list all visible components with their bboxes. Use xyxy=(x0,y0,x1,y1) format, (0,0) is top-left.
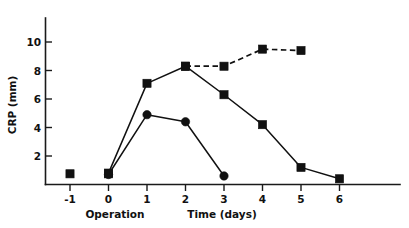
data-point-circle xyxy=(181,118,189,126)
data-point-square xyxy=(297,46,305,54)
y-axis-title: CRP (mm) xyxy=(6,76,18,135)
y-tick-marks xyxy=(46,42,53,156)
y-tick-label-4: 4 xyxy=(34,122,41,134)
x-tick-label--1: -1 xyxy=(64,193,76,205)
x-tick-marks xyxy=(70,185,340,192)
x-tick-label-6: 6 xyxy=(336,193,343,205)
operation-annotation: Operation xyxy=(85,208,144,220)
y-tick-label-8: 8 xyxy=(34,65,41,77)
x-tick-label-3: 3 xyxy=(220,193,227,205)
x-tick-label-2: 2 xyxy=(182,193,189,205)
series-path-squares-dashed-plateau xyxy=(186,49,302,66)
series-path-circles xyxy=(109,115,225,176)
data-point-square xyxy=(181,62,189,70)
data-point-circle xyxy=(143,110,151,118)
data-point-circle xyxy=(220,172,228,180)
y-tick-labels: 10 8 6 4 2 xyxy=(26,36,41,162)
data-point-square xyxy=(258,45,266,53)
x-tick-label-0: 0 xyxy=(105,193,112,205)
y-tick-label-2: 2 xyxy=(34,150,41,162)
series-baseline-markers xyxy=(66,170,113,178)
y-tick-label-6: 6 xyxy=(34,93,41,105)
y-tick-label-10: 10 xyxy=(26,36,41,48)
axes-group xyxy=(46,18,401,185)
x-tick-label-4: 4 xyxy=(259,193,266,205)
data-point-square xyxy=(104,170,112,178)
chart-figure: 10 8 6 4 2 CRP (mm) -1 0 1 2 3 4 5 xyxy=(0,0,409,228)
data-point-square xyxy=(258,121,266,129)
x-axis-title: Time (days) xyxy=(187,208,256,220)
series-squares-dashed-plateau xyxy=(181,45,305,70)
series-circles xyxy=(104,110,228,180)
data-point-square xyxy=(220,91,228,99)
x-tick-labels: -1 0 1 2 3 4 5 6 xyxy=(64,193,343,205)
data-point-square xyxy=(220,62,228,70)
series-squares-rising-then-falling xyxy=(104,62,343,183)
data-point-square xyxy=(335,175,343,183)
data-point-square xyxy=(66,170,74,178)
x-tick-label-5: 5 xyxy=(297,193,304,205)
data-point-square xyxy=(297,163,305,171)
series-layer xyxy=(66,45,344,183)
x-tick-label-1: 1 xyxy=(143,193,150,205)
chart-canvas: 10 8 6 4 2 CRP (mm) -1 0 1 2 3 4 5 xyxy=(0,0,409,228)
data-point-square xyxy=(143,79,151,87)
